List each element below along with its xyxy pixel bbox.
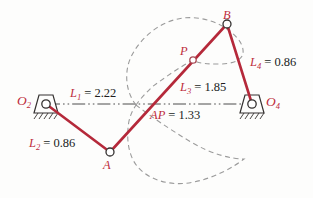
coupler-curve — [127, 18, 244, 184]
label-o4-symbol: O — [266, 94, 276, 109]
dim-l4-value: = 0.86 — [264, 55, 296, 69]
label-o2-subscript: 2 — [27, 100, 32, 110]
dimension-l3: L3= 1.85 — [179, 80, 226, 96]
dimension-l1: L1= 2.22 — [69, 86, 116, 102]
dim-l3-subscript: 3 — [186, 86, 191, 96]
dimension-l2: L2= 0.86 — [28, 136, 75, 152]
label-o2: O2 — [17, 93, 32, 110]
dim-l3-symbol: L — [179, 80, 187, 94]
dim-l4-symbol: L — [249, 55, 257, 69]
label-p: P — [179, 44, 188, 58]
joint-a — [106, 148, 114, 156]
link-l4-rocker — [227, 24, 252, 104]
coupler-point-p — [190, 57, 196, 63]
pivot-o4-joint — [248, 100, 256, 108]
label-o2-symbol: O — [17, 93, 27, 108]
linkage-diagram: O2 O4 A B P L1= 2.22 L2= 0.86 L3= 1.85 L… — [0, 0, 313, 198]
dim-l2-subscript: 2 — [36, 142, 41, 152]
dimension-ap: AP= 1.33 — [149, 108, 200, 122]
dim-l1-subscript: 1 — [77, 92, 81, 102]
linkage-canvas: O2 O4 A B P L1= 2.22 L2= 0.86 L3= 1.85 L… — [0, 0, 313, 198]
label-b-symbol: B — [223, 8, 231, 22]
dim-ap-value: = 1.33 — [168, 108, 200, 122]
label-a: A — [102, 158, 111, 172]
dim-l4-subscript: 4 — [257, 61, 262, 71]
dim-ap-symbol: AP — [149, 108, 166, 122]
pivot-o2-joint — [42, 100, 50, 108]
dim-l2-value: = 0.86 — [43, 136, 75, 150]
label-o4-subscript: 4 — [276, 101, 281, 111]
label-a-symbol: A — [102, 158, 111, 172]
label-b: B — [223, 8, 231, 22]
ground-hatching-o4 — [240, 113, 264, 119]
ground-hatching-o2 — [34, 113, 58, 119]
dim-l1-value: = 2.22 — [84, 86, 116, 100]
dim-l3-value: = 1.85 — [194, 80, 226, 94]
dim-l2-symbol: L — [28, 136, 36, 150]
label-p-symbol: P — [179, 44, 188, 58]
dim-l1-symbol: L — [69, 86, 77, 100]
label-o4: O4 — [266, 94, 281, 111]
dimension-l4: L4= 0.86 — [249, 55, 296, 71]
